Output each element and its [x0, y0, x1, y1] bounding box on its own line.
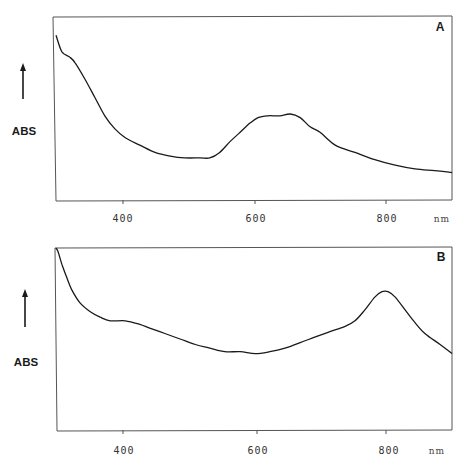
panel-a-chart: 400 600 800 nm A ABS: [12, 16, 452, 224]
up-arrow-icon: [20, 63, 26, 99]
spectrum-curve-a: [56, 35, 452, 172]
up-arrow-icon: [22, 289, 28, 327]
x-tick-label: 800: [376, 213, 397, 224]
x-unit-label: nm: [429, 446, 445, 456]
x-unit-label: nm: [434, 214, 450, 224]
spectrum-curve-b: [56, 248, 452, 354]
panel-label-a: A: [436, 20, 445, 34]
panel-label-b: B: [437, 250, 446, 264]
panel-a-frame: [53, 16, 452, 201]
panel-b-chart: 400 600 800 nm B ABS: [14, 247, 452, 456]
x-tick-label: 600: [245, 213, 266, 224]
y-axis-label: ABS: [14, 356, 39, 368]
x-tick-label: 400: [113, 445, 134, 456]
y-axis-label: ABS: [12, 125, 37, 137]
x-tick-label: 800: [378, 445, 399, 456]
x-tick-label: 600: [247, 445, 268, 456]
absorbance-figure: 400 600 800 nm A ABS 400 600 800 nm B AB…: [0, 0, 462, 464]
x-tick-label: 400: [112, 213, 133, 224]
panel-b-frame: [55, 247, 452, 431]
